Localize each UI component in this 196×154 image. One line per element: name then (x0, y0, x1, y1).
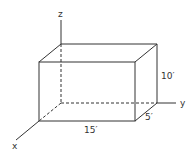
length-label: 15′ (84, 125, 98, 135)
edge-top-right (135, 44, 157, 62)
x-axis (16, 121, 39, 140)
x-axis-label: x (12, 141, 18, 151)
front-face (39, 62, 135, 121)
y-axis-label: y (180, 98, 186, 108)
hidden-edge-depth (39, 103, 61, 121)
height-label: 10′ (161, 71, 175, 81)
box-diagram: z y x 15′ 10′ 5′ (0, 0, 196, 154)
edge-top-left (39, 44, 61, 62)
z-axis-label: z (58, 9, 63, 19)
depth-label: 5′ (145, 112, 153, 122)
